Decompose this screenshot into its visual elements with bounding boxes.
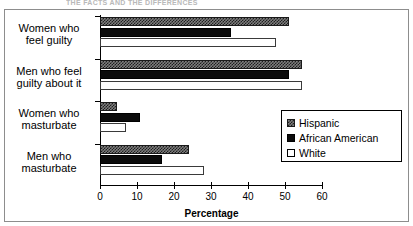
x-tick xyxy=(285,182,286,189)
legend-item: African American xyxy=(287,130,397,145)
category-label-line: feel guilty xyxy=(3,34,95,46)
legend-label: White xyxy=(299,147,326,159)
x-tick xyxy=(100,182,101,189)
category-label: Men whomasturbate xyxy=(3,150,95,174)
legend-label: African American xyxy=(299,132,378,144)
x-tick xyxy=(174,182,175,189)
x-tick-label: 0 xyxy=(85,191,115,202)
bar-african-american xyxy=(100,113,140,122)
x-tick-label: 40 xyxy=(233,191,263,202)
x-tick-label: 30 xyxy=(196,191,226,202)
bar-hispanic xyxy=(100,145,189,154)
category-label-line: guilty about it xyxy=(3,77,95,89)
category-label-line: Women who xyxy=(3,107,95,119)
x-tick-label: 20 xyxy=(159,191,189,202)
chart-figure: THE FACTS AND THE DIFFERENCES 0102030405… xyxy=(0,0,413,226)
bar-white xyxy=(100,166,204,175)
category-label-line: Men who feel xyxy=(3,65,95,77)
bar-white xyxy=(100,81,302,90)
x-tick-label: 60 xyxy=(307,191,337,202)
category-label-line: Women who xyxy=(3,22,95,34)
bar-hispanic xyxy=(100,102,117,111)
category-label: Women whofeel guilty xyxy=(3,22,95,46)
legend-item: Hispanic xyxy=(287,115,397,130)
bar-white xyxy=(100,123,126,132)
african-american-swatch-icon xyxy=(287,134,295,142)
bar-african-american xyxy=(100,70,289,79)
category-label-line: Men who xyxy=(3,150,95,162)
x-tick xyxy=(137,182,138,189)
x-tick-label: 10 xyxy=(122,191,152,202)
x-tick xyxy=(211,182,212,189)
x-tick xyxy=(322,182,323,189)
legend-label: Hispanic xyxy=(299,117,339,129)
category-label: Women whomasturbate xyxy=(3,107,95,131)
bar-hispanic xyxy=(100,60,302,69)
bar-african-american xyxy=(100,155,162,164)
bar-white xyxy=(100,38,276,47)
category-label-line: masturbate xyxy=(3,162,95,174)
bar-hispanic xyxy=(100,17,289,26)
legend-item: White xyxy=(287,145,397,160)
hispanic-swatch-icon xyxy=(287,119,295,127)
x-tick-label: 50 xyxy=(270,191,300,202)
category-label-line: masturbate xyxy=(3,119,95,131)
white-swatch-icon xyxy=(287,149,295,157)
x-axis-title: Percentage xyxy=(100,208,323,219)
bar-african-american xyxy=(100,28,231,37)
legend: Hispanic African American White xyxy=(281,110,402,162)
x-tick xyxy=(248,182,249,189)
category-label: Men who feelguilty about it xyxy=(3,65,95,89)
